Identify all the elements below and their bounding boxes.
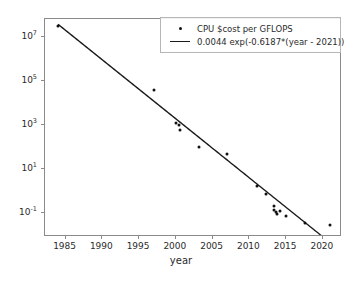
y-tick-label: 10-1 (19, 207, 37, 217)
y-tick-label: 107 (21, 31, 37, 41)
data-point (303, 221, 306, 224)
data-point (57, 24, 60, 27)
data-point (255, 184, 258, 187)
y-tick-label: 101 (21, 163, 37, 173)
data-point (264, 193, 267, 196)
legend-label-scatter: CPU $cost per GFLOPS (194, 24, 293, 34)
data-point (278, 209, 281, 212)
y-tick-label: 105 (21, 75, 37, 85)
legend-box: CPU $cost per GFLOPS 0.0044 exp(-0.6187*… (160, 17, 341, 53)
marker-dot-icon (166, 27, 194, 30)
data-point (329, 223, 332, 226)
data-point (197, 146, 200, 149)
x-axis-label: year (0, 255, 362, 266)
data-point (226, 153, 229, 156)
x-tick-mark (101, 236, 102, 239)
data-point (285, 214, 288, 217)
x-tick-label: 2010 (237, 241, 260, 251)
data-point (272, 204, 275, 207)
y-tick-mark (41, 36, 44, 37)
data-point (152, 88, 155, 91)
x-tick-label: 1990 (90, 241, 113, 251)
y-tick-mark (41, 80, 44, 81)
x-tick-mark (285, 236, 286, 239)
x-tick-mark (212, 236, 213, 239)
line-segment-icon (166, 41, 194, 43)
y-tick-mark (41, 212, 44, 213)
x-tick-label: 2020 (310, 241, 333, 251)
y-tick-label: 103 (21, 119, 37, 129)
legend-entry-scatter: CPU $cost per GFLOPS (166, 22, 334, 35)
data-point (275, 212, 278, 215)
x-tick-mark (175, 236, 176, 239)
figure-canvas: 19851990199520002005201020152020 10-1101… (0, 0, 362, 287)
x-tick-label: 1985 (53, 241, 76, 251)
x-tick-mark (65, 236, 66, 239)
x-tick-mark (322, 236, 323, 239)
legend-label-fit: 0.0044 exp(-0.6187*(year - 2021)) (194, 37, 344, 47)
y-tick-mark (41, 124, 44, 125)
x-tick-label: 1995 (127, 241, 150, 251)
y-tick-mark (41, 168, 44, 169)
data-point (177, 124, 180, 127)
x-tick-mark (138, 236, 139, 239)
legend-entry-fit: 0.0044 exp(-0.6187*(year - 2021)) (166, 35, 334, 48)
x-tick-label: 2015 (274, 241, 297, 251)
data-point (179, 128, 182, 131)
x-tick-label: 2005 (200, 241, 223, 251)
x-tick-label: 2000 (163, 241, 186, 251)
x-tick-mark (248, 236, 249, 239)
